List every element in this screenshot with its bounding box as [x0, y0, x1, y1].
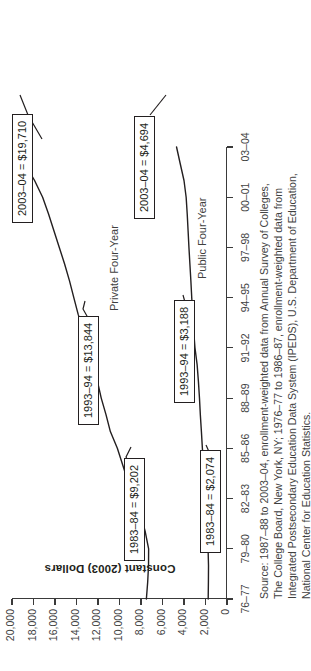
y-axis-tick: 14,000	[76, 599, 77, 605]
y-axis-tick-label: 10,000	[112, 609, 124, 641]
source-note: Source: 1987–88 to 2003–04, enrollment-w…	[258, 39, 298, 599]
x-axis-tick-label: 03–04	[239, 132, 251, 161]
y-axis-tick: 10,000	[119, 599, 120, 605]
callout-private-1993: 1993–94 = $13,844	[78, 316, 99, 425]
callout-public-1993: 1993–94 = $3,188	[174, 300, 195, 403]
y-axis-tick-label: 0	[219, 609, 231, 615]
source-line: Source: 1987–88 to 2003–04, enrollment-w…	[258, 39, 272, 599]
y-axis-tick: 20,000	[11, 599, 12, 605]
y-axis-tick: 6,000	[162, 599, 163, 605]
x-axis-tick-label: 94–95	[239, 283, 251, 312]
y-axis-tick: 18,000	[33, 599, 34, 605]
x-axis-tick	[227, 398, 233, 399]
x-axis-tick	[227, 197, 233, 198]
x-axis-tick-label: 76–77	[239, 584, 251, 613]
y-axis-tick-label: 2,000	[198, 609, 210, 635]
y-axis-tick-label: 18,000	[26, 609, 38, 641]
y-axis-tick-label: 8,000	[133, 609, 145, 635]
y-axis-tick-label: 16,000	[47, 609, 59, 641]
x-axis-tick	[227, 548, 233, 549]
y-axis-tick-label: 14,000	[69, 609, 81, 641]
y-axis-tick-label: 6,000	[155, 609, 167, 635]
x-axis-tick	[227, 347, 233, 348]
x-axis-tick	[227, 247, 233, 248]
callout-public-1983: 1983–84 = $2,074	[200, 450, 221, 553]
y-axis-tick: 4,000	[183, 599, 184, 605]
x-axis-tick	[227, 598, 233, 599]
x-axis-tick-label: 91–92	[239, 333, 251, 362]
x-axis-tick	[227, 448, 233, 449]
x-axis-tick-label: 00–01	[239, 183, 251, 212]
source-line: The College Board, New York, NY; 1976–77…	[272, 39, 286, 599]
y-axis-tick: 2,000	[205, 599, 206, 605]
x-axis-tick	[227, 297, 233, 298]
y-axis-tick-label: 4,000	[176, 609, 188, 635]
rotated-figure-wrapper: Constant (2003) Dollars 20,00018,00016,0…	[0, 0, 298, 671]
callout-private-2003: 2003–04 = $19,710	[12, 114, 33, 223]
x-axis-tick	[227, 146, 233, 147]
callout-public-2003: 2003–04 = $4,694	[134, 116, 155, 219]
y-axis-tick: 12,000	[97, 599, 98, 605]
source-line: Integrated Postsecondary Education Data …	[286, 39, 298, 599]
y-axis-tick: 0	[226, 599, 227, 605]
x-axis-tick-label: 88–89	[239, 384, 251, 413]
x-axis-tick	[227, 498, 233, 499]
x-axis-tick-label: 97–98	[239, 233, 251, 262]
series-label-public-four-year: Public Four-Year	[196, 197, 208, 279]
series-label-private-four-year: Private Four-Year	[108, 225, 120, 311]
x-axis-tick-label: 82–83	[239, 484, 251, 513]
y-axis-tick-label: 12,000	[90, 609, 102, 641]
y-axis-tick: 8,000	[140, 599, 141, 605]
x-axis-tick-label: 85–86	[239, 434, 251, 463]
x-axis-tick-label: 79–80	[239, 534, 251, 563]
chart-figure: Constant (2003) Dollars 20,00018,00016,0…	[0, 0, 298, 671]
y-axis-tick-label: 20,000	[4, 609, 16, 641]
y-axis-tick: 16,000	[54, 599, 55, 605]
callout-private-1983: 1983–84 = $9,202	[124, 458, 145, 561]
